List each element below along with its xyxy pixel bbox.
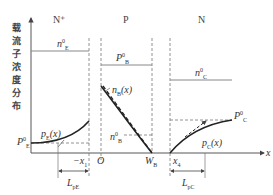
label-pC-x: pC(x): [202, 138, 222, 150]
label-origin: O: [97, 156, 104, 166]
region-base: P: [123, 15, 129, 25]
label-nE0: n0E: [57, 38, 69, 51]
label-nC0: n0C: [195, 67, 207, 80]
x-axis-label: x: [266, 148, 270, 158]
label-LpE: LpE: [67, 178, 79, 190]
region-emitter: N⁺: [53, 15, 65, 25]
diagram-graphics: [0, 0, 273, 195]
label-nB0: n0B: [110, 131, 122, 144]
label-pE-x: pE(x): [41, 129, 61, 141]
region-collector: N: [198, 15, 205, 25]
label-PC0: P0C: [234, 110, 247, 123]
label-PB0: P0B: [116, 52, 129, 65]
label-x4: x4: [173, 156, 180, 168]
carrier-distribution-diagram: 载 流 子 浓 度 分 布 N⁺ P N n0E P0B n0C P0E P0C…: [0, 0, 273, 195]
label-PE0: P0E: [17, 136, 30, 149]
label-WB: WB: [145, 156, 157, 168]
label-neg-x1: −x1: [73, 156, 87, 168]
label-LpC: LpC: [182, 178, 195, 190]
y-axis-label: 载 流 子 浓 度 分 布: [10, 22, 22, 113]
label-nB-x: nB(x): [112, 85, 132, 97]
